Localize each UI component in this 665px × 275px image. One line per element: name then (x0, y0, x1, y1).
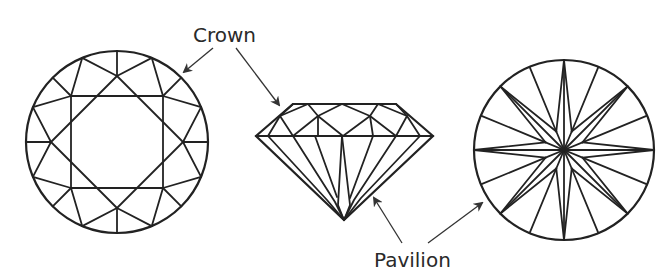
crown-top-view (26, 51, 208, 233)
pavilion-bottom-view (474, 60, 654, 240)
crown-arrow-top-view (184, 48, 213, 72)
diamond-side-view (256, 104, 433, 220)
crown-label: Crown (193, 23, 256, 47)
crown-arrow-side-view (236, 48, 279, 105)
pavilion-arrow-side-view (374, 198, 402, 243)
pavilion-facets (474, 60, 654, 240)
diamond-anatomy-diagram: Crown Pavilion (0, 0, 665, 275)
pavilion-arrow-bottom-view (428, 203, 482, 243)
pavilion-label: Pavilion (374, 248, 451, 272)
